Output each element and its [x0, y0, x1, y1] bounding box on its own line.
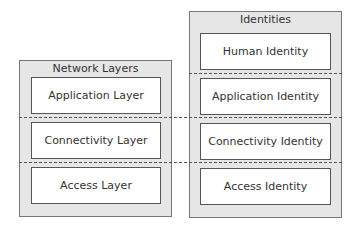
application-layer-box: Application Layer	[31, 77, 161, 114]
identities-title: Identities	[190, 13, 341, 26]
connectivity-identity-box: Connectivity Identity	[200, 123, 331, 160]
divider-application-connectivity	[19, 117, 342, 118]
divider-connectivity-access	[19, 162, 342, 163]
application-identity-box: Application Identity	[200, 78, 331, 115]
human-identity-box: Human Identity	[200, 33, 331, 70]
network-layers-title: Network Layers	[20, 62, 171, 75]
access-layer-box: Access Layer	[31, 167, 161, 204]
divider-human-application-identity	[189, 73, 342, 74]
access-identity-box: Access Identity	[200, 168, 331, 205]
connectivity-layer-box: Connectivity Layer	[31, 122, 161, 159]
